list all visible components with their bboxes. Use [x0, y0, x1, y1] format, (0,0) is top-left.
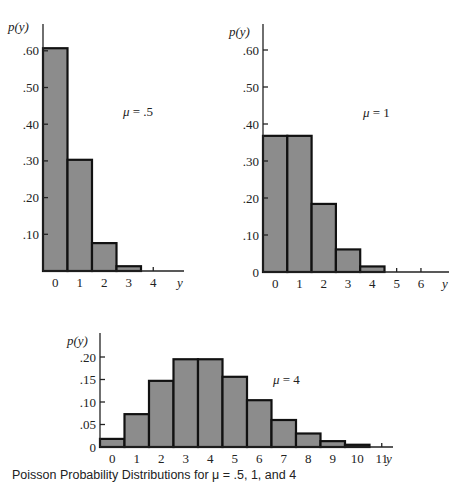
bar-9 — [321, 441, 346, 447]
y-tick-label: .20 — [80, 350, 96, 365]
y-tick-label: .15 — [80, 372, 96, 387]
chart-mu-0-5: 01234y.10.20.30.40.50.60p(y)μ = .5 — [7, 19, 184, 290]
x-tick-label: 1 — [296, 276, 303, 291]
mu-annotation: μ = 4 — [272, 372, 300, 387]
bar-4 — [198, 359, 223, 447]
x-axis-title: y — [440, 276, 448, 291]
y-tick-label: .40 — [23, 117, 39, 132]
y-tick-label: .60 — [23, 43, 39, 58]
y-tick-label: .60 — [243, 43, 259, 58]
bar-2 — [149, 381, 174, 447]
x-tick-label: 4 — [369, 276, 376, 291]
y-axis-title: p(y) — [228, 24, 250, 39]
x-tick-label: 0 — [272, 276, 279, 291]
bar-3 — [336, 249, 360, 272]
bar-2 — [312, 204, 336, 272]
bar-0 — [43, 48, 68, 271]
chart-mu-4: 01234567891011y0.05.10.15.20p(y)μ = 4 — [66, 333, 393, 466]
bar-1 — [287, 136, 311, 272]
y-tick-label: .50 — [243, 80, 259, 95]
x-tick-label: 10 — [351, 451, 364, 466]
x-tick-label: 3 — [126, 275, 133, 290]
bar-6 — [247, 400, 272, 447]
x-tick-label: 5 — [232, 451, 239, 466]
y-axis-title: p(y) — [66, 333, 88, 348]
y-tick-label: .20 — [23, 190, 39, 205]
y-tick-label: .20 — [243, 191, 259, 206]
x-axis-title: y — [175, 275, 183, 290]
y-tick-label: .30 — [243, 154, 259, 169]
y-tick-label: .40 — [243, 117, 259, 132]
x-tick-label: 4 — [207, 451, 214, 466]
x-tick-label: 6 — [256, 451, 263, 466]
bar-3 — [117, 266, 142, 271]
y-tick-label: .10 — [80, 395, 96, 410]
bar-8 — [296, 434, 321, 448]
y-tick-label: .30 — [23, 153, 39, 168]
x-tick-label: 2 — [101, 275, 108, 290]
x-tick-label: 7 — [281, 451, 288, 466]
bar-0 — [263, 136, 287, 272]
x-tick-label: 9 — [330, 451, 337, 466]
y-tick-label: .10 — [23, 227, 39, 242]
y-tick-label: 0 — [253, 265, 260, 280]
x-axis-title: y — [384, 451, 392, 466]
bar-7 — [272, 420, 297, 447]
poisson-charts: 01234y.10.20.30.40.50.60p(y)μ = .5 01234… — [0, 0, 471, 491]
chart-mu-1: 0123456y0.10.20.30.40.50.60p(y)μ = 1 — [228, 24, 449, 291]
bar-0 — [100, 439, 125, 447]
bar-4 — [360, 266, 384, 272]
y-tick-label: .10 — [243, 228, 259, 243]
y-tick-label: .50 — [23, 80, 39, 95]
x-tick-label: 3 — [345, 276, 352, 291]
x-tick-label: 2 — [321, 276, 328, 291]
x-tick-label: 8 — [305, 451, 312, 466]
bar-2 — [92, 243, 117, 271]
figure-caption: Poisson Probability Distributions for μ … — [12, 468, 296, 482]
x-tick-label: 0 — [52, 275, 59, 290]
x-tick-label: 6 — [418, 276, 425, 291]
y-axis-title: p(y) — [7, 19, 29, 34]
bar-1 — [68, 160, 93, 271]
x-tick-label: 3 — [183, 451, 190, 466]
x-tick-label: 1 — [134, 451, 141, 466]
y-tick-label: 0 — [90, 440, 97, 455]
y-tick-label: .05 — [80, 417, 96, 432]
x-tick-label: 0 — [109, 451, 116, 466]
bar-1 — [125, 414, 150, 447]
x-tick-label: 4 — [150, 275, 157, 290]
x-tick-label: 5 — [393, 276, 400, 291]
bar-5 — [223, 377, 248, 447]
bar-3 — [174, 359, 199, 447]
mu-annotation: μ = 1 — [362, 105, 390, 120]
x-tick-label: 2 — [158, 451, 165, 466]
x-tick-label: 1 — [77, 275, 84, 290]
mu-annotation: μ = .5 — [122, 104, 153, 119]
